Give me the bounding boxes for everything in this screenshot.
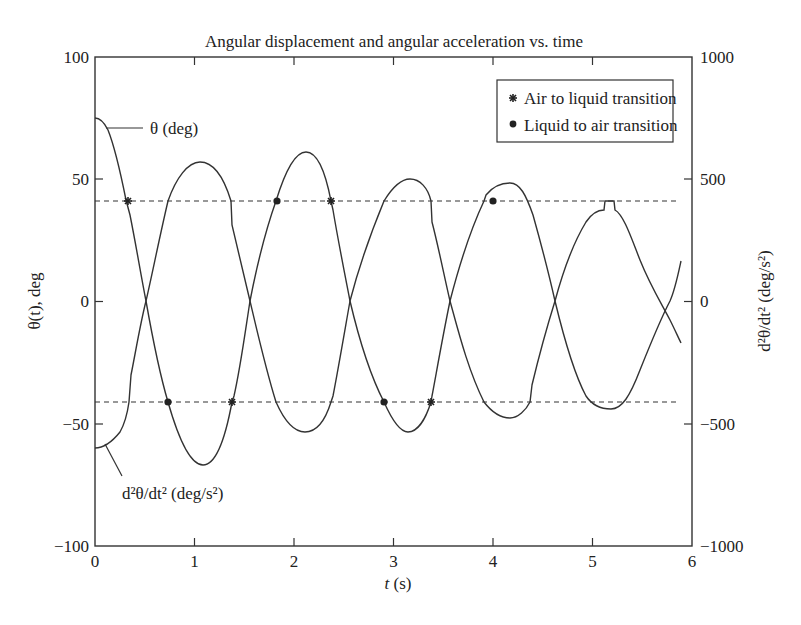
legend: Air to liquid transition Liquid to air t… bbox=[497, 80, 678, 142]
dot-marker-icon bbox=[510, 121, 517, 128]
y-axis-ticks bbox=[95, 179, 692, 424]
acceleration-annotation: d²θ/dt² (deg/s²) bbox=[105, 444, 223, 503]
legend-item-air-to-liquid: Air to liquid transition bbox=[509, 89, 677, 108]
y-right-tick-labels: 1000 500 0 −500 −1000 bbox=[700, 48, 744, 556]
svg-text:6: 6 bbox=[688, 552, 697, 571]
svg-text:50: 50 bbox=[72, 170, 89, 189]
svg-text:−500: −500 bbox=[700, 415, 735, 434]
legend-item-liquid-to-air: Liquid to air transition bbox=[510, 116, 678, 135]
svg-text:0: 0 bbox=[81, 292, 90, 311]
svg-text:3: 3 bbox=[389, 552, 398, 571]
svg-text:2: 2 bbox=[290, 552, 299, 571]
svg-text:−50: −50 bbox=[62, 415, 89, 434]
svg-text:θ (deg): θ (deg) bbox=[150, 119, 198, 138]
svg-text:−1000: −1000 bbox=[700, 537, 744, 556]
svg-text:5: 5 bbox=[588, 552, 597, 571]
x-axis-label: t (s) bbox=[385, 574, 412, 593]
threshold-lines bbox=[95, 201, 680, 402]
y-left-tick-labels: 100 50 0 −50 −100 bbox=[54, 48, 89, 556]
acceleration-series-line bbox=[95, 162, 681, 448]
star-marker-icon bbox=[509, 94, 517, 102]
svg-text:−100: −100 bbox=[54, 537, 89, 556]
x-tick-labels: 0 1 2 3 4 5 6 bbox=[91, 552, 697, 571]
svg-text:1000: 1000 bbox=[700, 48, 734, 67]
air-to-liquid-markers bbox=[124, 197, 435, 406]
svg-text:1: 1 bbox=[190, 552, 199, 571]
svg-text:0: 0 bbox=[91, 552, 100, 571]
svg-text:100: 100 bbox=[64, 48, 90, 67]
svg-text:Liquid to air transition: Liquid to air transition bbox=[524, 116, 678, 135]
liquid-to-air-markers bbox=[164, 197, 496, 405]
chart-title: Angular displacement and angular acceler… bbox=[205, 32, 583, 51]
y-right-axis-label: d²θ/dt² (deg/s²) bbox=[755, 250, 774, 351]
svg-text:Air to liquid transition: Air to liquid transition bbox=[524, 89, 677, 108]
svg-text:d²θ/dt² (deg/s²): d²θ/dt² (deg/s²) bbox=[122, 484, 223, 503]
svg-text:500: 500 bbox=[700, 170, 726, 189]
svg-text:0: 0 bbox=[700, 292, 709, 311]
theta-annotation: θ (deg) bbox=[106, 119, 198, 138]
chart-canvas: Angular displacement and angular acceler… bbox=[0, 0, 801, 625]
y-left-axis-label: θ(t), deg bbox=[25, 272, 44, 330]
svg-text:4: 4 bbox=[489, 552, 498, 571]
theta-series-line bbox=[95, 118, 681, 465]
